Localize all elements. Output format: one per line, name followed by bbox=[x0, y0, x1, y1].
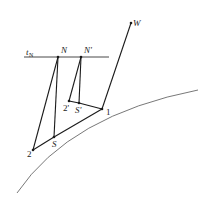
point-1 bbox=[101, 108, 104, 111]
point-2-prime bbox=[68, 100, 71, 103]
label-2-prime: 2' bbox=[63, 103, 70, 113]
label-N-prime: N' bbox=[83, 45, 93, 55]
geometry-diagram: t N N N' W 1 2' S' 2 S bbox=[0, 0, 216, 209]
label-1: 1 bbox=[106, 107, 111, 117]
segment-1-W bbox=[102, 23, 131, 109]
segment-2prime-Sprime bbox=[69, 101, 79, 103]
point-2 bbox=[32, 149, 35, 152]
label-tangent-subscript: N bbox=[29, 52, 34, 58]
label-S: S bbox=[52, 139, 57, 149]
label-S-prime: S' bbox=[75, 105, 83, 115]
point-N-prime bbox=[80, 56, 83, 59]
point-S bbox=[53, 136, 56, 139]
label-N: N bbox=[60, 45, 68, 55]
label-2: 2 bbox=[27, 149, 32, 159]
boundary-curve bbox=[17, 90, 198, 193]
point-N bbox=[57, 56, 60, 59]
point-W bbox=[130, 22, 133, 25]
segment-Sprime-1 bbox=[79, 103, 102, 109]
point-S-prime bbox=[78, 102, 81, 105]
label-W: W bbox=[133, 18, 142, 28]
